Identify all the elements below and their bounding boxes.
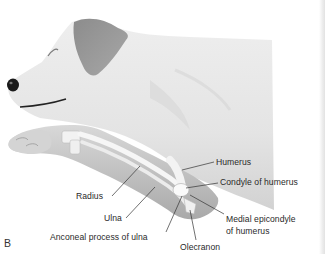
label-medial-epicondyle-line1: Medial epicondyle: [226, 214, 296, 225]
label-ulna: Ulna: [104, 213, 122, 224]
anatomy-figure: Humerus Condyle of humerus Radius Ulna M…: [0, 0, 325, 254]
label-medial-epicondyle-line2: of humerus: [226, 226, 270, 237]
label-radius: Radius: [76, 191, 103, 202]
nose: [7, 79, 19, 92]
label-anconeal-process-of-ulna: Anconeal process of ulna: [50, 232, 148, 243]
label-condyle-of-humerus: Condyle of humerus: [220, 177, 298, 188]
panel-letter: B: [4, 237, 11, 249]
label-humerus: Humerus: [216, 157, 251, 168]
page-edge: [319, 0, 325, 254]
label-olecranon: Olecranon: [180, 242, 220, 253]
